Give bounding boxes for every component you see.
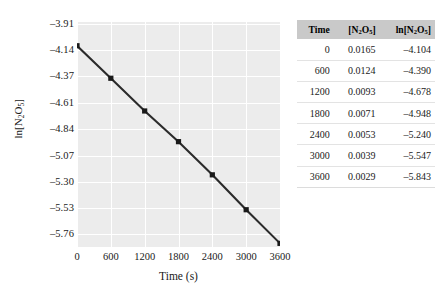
data-point-marker	[277, 241, 280, 246]
y-axis-tick-label: –4.14	[2, 45, 74, 56]
cell-concentration: 0.0124	[335, 60, 380, 81]
data-point-marker	[210, 172, 215, 177]
column-header-time: Time	[297, 20, 335, 39]
cell-time: 3600	[297, 166, 335, 187]
table-header-row: Time [N2O5] ln[N2O5]	[297, 20, 435, 39]
cell-concentration: 0.0093	[335, 81, 380, 102]
cell-concentration: 0.0053	[335, 124, 380, 145]
table-body: 00.0165–4.1046000.0124–4.39012000.0093–4…	[297, 39, 435, 187]
y-axis-tick-label: –4.37	[2, 71, 74, 82]
data-point-marker	[244, 207, 249, 212]
plot-area	[77, 22, 280, 247]
table-row: 12000.0093–4.678	[297, 81, 435, 102]
data-table: Time [N2O5] ln[N2O5] 00.0165–4.1046000.0…	[297, 20, 435, 188]
data-table-container: Time [N2O5] ln[N2O5] 00.0165–4.1046000.0…	[297, 20, 435, 188]
cell-concentration: 0.0165	[335, 39, 380, 60]
y-axis-tick-label: –5.07	[2, 151, 74, 162]
data-point-marker	[142, 108, 147, 113]
cell-time: 3000	[297, 145, 335, 166]
table-row: 18000.0071–4.948	[297, 102, 435, 123]
y-axis-tick-label: –3.91	[2, 19, 74, 30]
cell-ln-concentration: –4.678	[380, 81, 435, 102]
data-point-marker	[77, 43, 80, 48]
data-line	[77, 46, 280, 244]
cell-ln-concentration: –4.104	[380, 39, 435, 60]
cell-ln-concentration: –5.240	[380, 124, 435, 145]
column-header-ln-concentration: ln[N2O5]	[380, 20, 435, 39]
table-header: Time [N2O5] ln[N2O5]	[297, 20, 435, 39]
cell-concentration: 0.0039	[335, 145, 380, 166]
column-header-concentration: [N2O5]	[335, 20, 380, 39]
cell-concentration: 0.0071	[335, 102, 380, 123]
data-series-line	[77, 22, 280, 247]
chart-figure: ln[N2O5] –3.91–4.14–4.37–4.61–4.84–5.07–…	[0, 0, 292, 296]
table-row: 6000.0124–4.390	[297, 60, 435, 81]
y-axis-tick-label: –4.84	[2, 124, 74, 135]
cell-ln-concentration: –5.547	[380, 145, 435, 166]
y-axis-tick-label: –4.61	[2, 98, 74, 109]
x-axis-tick-label: 3600	[258, 251, 302, 262]
table-row: 24000.0053–5.240	[297, 124, 435, 145]
y-axis-tick-label: –5.53	[2, 203, 74, 214]
cell-time: 1800	[297, 102, 335, 123]
cell-ln-concentration: –5.843	[380, 166, 435, 187]
table-row: 00.0165–4.104	[297, 39, 435, 60]
cell-time: 600	[297, 60, 335, 81]
y-axis-tick-label: –5.30	[2, 177, 74, 188]
cell-ln-concentration: –4.948	[380, 102, 435, 123]
cell-time: 1200	[297, 81, 335, 102]
y-axis-tick-label: –5.76	[2, 229, 74, 240]
cell-time: 0	[297, 39, 335, 60]
cell-concentration: 0.0029	[335, 166, 380, 187]
cell-time: 2400	[297, 124, 335, 145]
table-row: 30000.0039–5.547	[297, 145, 435, 166]
data-point-marker	[108, 76, 113, 81]
table-row: 36000.0029–5.843	[297, 166, 435, 187]
cell-ln-concentration: –4.390	[380, 60, 435, 81]
x-axis-title: Time (s)	[77, 270, 280, 282]
data-point-marker	[176, 139, 181, 144]
